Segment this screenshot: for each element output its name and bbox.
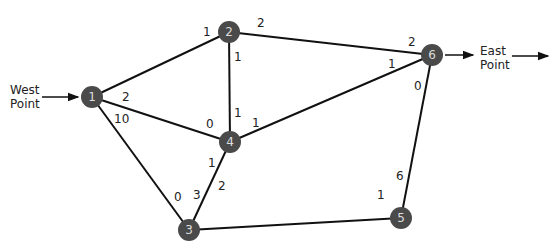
edge-label: 0 [206,118,214,130]
edge-1-2 [92,32,229,97]
node-label-1: 1 [81,86,103,108]
edge-label: 0 [414,80,422,92]
node-label-2: 2 [218,21,240,43]
edge-label: 1 [234,51,242,63]
edge-label: 2 [218,180,226,192]
edge-label: 2 [122,91,130,103]
edge-label: 6 [396,170,404,182]
node-label-4: 4 [219,131,241,153]
node-label-5: 5 [390,207,412,229]
edge-label: 2 [257,17,265,29]
edge-label: 1 [234,107,242,119]
east-point-label: East Point [480,44,510,72]
nodes [81,21,443,241]
node-label-3: 3 [178,219,200,241]
edge-label: 2 [408,36,416,48]
edge-2-4 [229,32,230,142]
west-point-label: West Point [10,83,40,111]
edge-label: 1 [203,26,211,38]
edge-label: 1 [208,157,216,169]
edge-label: 0 [174,191,182,203]
edge-label: 1 [252,117,260,129]
edge-4-6 [230,55,432,142]
edge-label: 3 [193,189,201,201]
edge-1-3 [92,97,189,230]
edge-3-5 [189,218,401,230]
node-label-6: 6 [421,44,443,66]
network-diagram [0,0,553,249]
edge-label: 10 [114,113,129,125]
edge-2-6 [229,32,432,55]
edge-label: 1 [388,58,396,70]
edge-label: 1 [377,189,385,201]
